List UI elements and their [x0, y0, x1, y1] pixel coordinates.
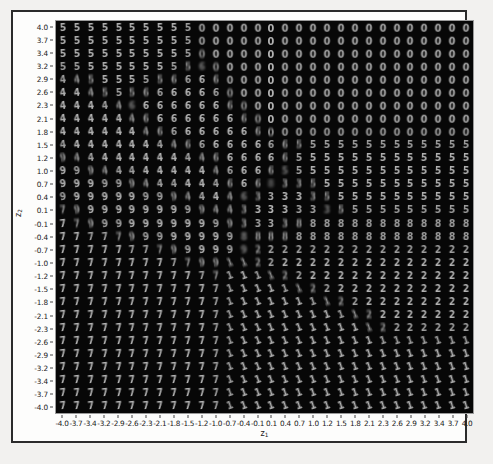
digit-glyph: 8 [393, 218, 400, 228]
manifold-cell: 5 [292, 165, 306, 178]
digit-glyph: 0 [421, 61, 428, 72]
digit-glyph: 5 [157, 75, 164, 85]
manifold-cell: 1 [417, 400, 431, 413]
digit-glyph: 2 [463, 310, 469, 320]
digit-glyph: 4 [143, 166, 150, 177]
manifold-cell: 9 [153, 191, 167, 204]
digit-glyph: 0 [407, 74, 414, 85]
manifold-cell: 1 [251, 335, 265, 348]
digit-glyph: 1 [225, 335, 234, 347]
digit-glyph: 9 [129, 192, 137, 203]
manifold-cell: 5 [348, 204, 362, 217]
digit-glyph: 4 [87, 101, 94, 112]
manifold-cell: 2 [376, 308, 390, 321]
manifold-cell: 6 [237, 191, 251, 204]
y-axis-tick-label: 2.6 [37, 88, 48, 97]
digit-glyph: 0 [240, 35, 247, 46]
y-axis-tick-mark [50, 157, 53, 158]
digit-glyph: 0 [337, 35, 344, 46]
digit-glyph: 1 [434, 401, 443, 413]
digit-glyph: 5 [421, 205, 428, 215]
manifold-cell: 0 [251, 73, 265, 86]
digit-glyph: 7 [87, 257, 94, 268]
x-axis-tick-label: -1.2 [195, 419, 208, 428]
digit-glyph: 5 [157, 36, 164, 46]
digit-glyph: 9 [115, 205, 123, 216]
manifold-cell: 1 [445, 387, 459, 400]
manifold-cell: 5 [98, 86, 112, 99]
digit-glyph: 2 [407, 284, 414, 294]
digit-glyph: 9 [101, 218, 109, 229]
digit-glyph: 1 [225, 322, 234, 334]
manifold-cell: 7 [56, 361, 70, 374]
manifold-cell: 7 [112, 256, 126, 269]
digit-glyph: 1 [336, 374, 345, 386]
manifold-cell: 4 [209, 191, 223, 204]
digit-glyph: 2 [268, 244, 275, 254]
y-axis-tick-mark [50, 302, 53, 303]
digit-glyph: 7 [73, 231, 81, 242]
digit-glyph: 1 [253, 283, 262, 295]
manifold-cell: 6 [153, 112, 167, 125]
manifold-cell: 5 [445, 152, 459, 165]
manifold-cell: 2 [417, 322, 431, 335]
digit-glyph: 1 [267, 401, 276, 413]
manifold-cell: 5 [84, 21, 98, 34]
manifold-cell: 7 [125, 308, 139, 321]
manifold-cell: 7 [98, 282, 112, 295]
manifold-cell: 2 [306, 282, 320, 295]
digit-glyph: 4 [129, 140, 136, 151]
manifold-cell: 7 [98, 295, 112, 308]
digit-glyph: 2 [393, 258, 400, 268]
manifold-cell: 5 [125, 21, 139, 34]
digit-glyph: 6 [199, 75, 206, 85]
digit-glyph: 2 [351, 258, 358, 268]
manifold-cell: 7 [70, 269, 84, 282]
digit-glyph: 5 [129, 75, 136, 85]
digit-glyph: 5 [143, 49, 150, 59]
digit-glyph: 0 [393, 101, 400, 112]
digit-glyph: 9 [59, 192, 67, 203]
manifold-cell: 5 [125, 34, 139, 47]
manifold-cell: 7 [125, 269, 139, 282]
y-axis-tick-mark [50, 171, 53, 172]
digit-glyph: 1 [420, 335, 429, 347]
y-axis-tick-mark [50, 92, 53, 93]
digit-glyph: 1 [295, 374, 304, 386]
digit-glyph: 1 [308, 374, 317, 386]
manifold-cell: 2 [403, 295, 417, 308]
x-axis-tick-mark [341, 415, 342, 418]
manifold-cell: 2 [251, 256, 265, 269]
manifold-cell: 3 [251, 217, 265, 230]
manifold-cell: 0 [237, 21, 251, 34]
digit-glyph: 2 [449, 323, 456, 333]
digit-glyph: 0 [254, 35, 261, 46]
manifold-cell: 7 [112, 308, 126, 321]
digit-glyph: 0 [435, 22, 442, 33]
manifold-cell: 7 [112, 282, 126, 295]
digit-glyph: 4 [157, 153, 164, 164]
manifold-cell: 4 [84, 99, 98, 112]
digit-glyph: 0 [268, 61, 275, 72]
digit-glyph: 1 [281, 401, 290, 413]
y-axis-tick-label: -0.7 [34, 245, 48, 254]
x-axis-tick-label: 1.0 [308, 419, 319, 428]
x-axis-tick-label: 0.1 [266, 419, 277, 428]
manifold-cell: 7 [181, 400, 195, 413]
digit-glyph: 6 [240, 166, 247, 176]
manifold-cell: 4 [70, 99, 84, 112]
manifold-cell: 4 [209, 204, 223, 217]
manifold-cell: 0 [445, 21, 459, 34]
digit-glyph: 7 [73, 244, 81, 255]
digit-glyph: 7 [101, 362, 108, 373]
manifold-cell: 1 [237, 361, 251, 374]
y-axis-tick-label: -1.0 [34, 258, 48, 267]
manifold-cell: 9 [125, 217, 139, 230]
digit-glyph: 1 [322, 335, 331, 347]
manifold-cell: 7 [56, 348, 70, 361]
manifold-cell: 7 [139, 282, 153, 295]
digit-glyph: 5 [296, 166, 302, 176]
manifold-cell: 9 [153, 230, 167, 243]
digit-glyph: 5 [185, 36, 192, 46]
manifold-cell: 0 [348, 21, 362, 34]
